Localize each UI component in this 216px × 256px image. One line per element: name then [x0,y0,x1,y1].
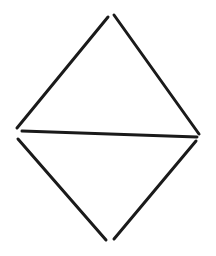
figure-canvas [0,0,216,256]
canvas-background [0,0,216,256]
line-drawing-svg [0,0,216,256]
